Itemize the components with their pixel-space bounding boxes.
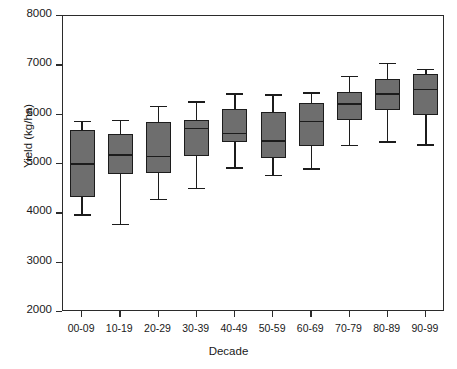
- x-tick-60-69: 60-69: [310, 311, 311, 341]
- y-tick-4000: 4000: [0, 212, 62, 213]
- box-plot-90-99: [63, 16, 445, 312]
- x-tick-10-19: 10-19: [119, 311, 120, 341]
- x-tick-mark: [272, 311, 273, 317]
- y-tick-mark: [56, 311, 62, 312]
- x-tick-30-39: 30-39: [196, 311, 197, 341]
- lower-whisker-cap: [417, 144, 434, 145]
- y-tick-7000: 7000: [0, 64, 62, 65]
- x-tick-20-29: 20-29: [158, 311, 159, 341]
- x-tick-mark: [349, 311, 350, 317]
- box-iqr-rect: [413, 74, 438, 114]
- lower-whisker-line: [425, 115, 426, 145]
- y-tick-3000: 3000: [0, 262, 62, 263]
- x-tick-mark: [234, 311, 235, 317]
- y-tick-6000: 6000: [0, 114, 62, 115]
- x-tick-mark: [387, 311, 388, 317]
- y-tick-label: 3000: [26, 254, 52, 266]
- y-tick-2000: 2000: [0, 311, 62, 312]
- upper-whisker-cap: [417, 69, 434, 70]
- plot-area: [62, 15, 444, 311]
- x-tick-mark: [196, 311, 197, 317]
- x-tick-mark: [310, 311, 311, 317]
- y-tick-label: 5000: [26, 155, 52, 167]
- y-tick-label: 6000: [26, 106, 52, 118]
- x-tick-50-59: 50-59: [272, 311, 273, 341]
- median-line: [413, 89, 438, 91]
- x-tick-mark: [158, 311, 159, 317]
- x-tick-mark: [425, 311, 426, 317]
- y-tick-label: 4000: [26, 204, 52, 216]
- x-tick-mark: [81, 311, 82, 317]
- x-tick-90-99: 90-99: [425, 311, 426, 341]
- y-tick-5000: 5000: [0, 163, 62, 164]
- x-tick-00-09: 00-09: [81, 311, 82, 341]
- x-tick-mark: [119, 311, 120, 317]
- x-tick-label: 90-99: [399, 322, 451, 334]
- y-tick-label: 8000: [26, 7, 52, 19]
- x-tick-80-89: 80-89: [387, 311, 388, 341]
- x-tick-40-49: 40-49: [234, 311, 235, 341]
- box-plot-figure: Yield (kg/ha) 20003000400050006000700080…: [0, 0, 457, 369]
- y-tick-label: 2000: [26, 303, 52, 315]
- x-axis-title: Decade: [0, 345, 457, 357]
- y-axis-title: Yield (kg/ha): [22, 56, 34, 216]
- y-tick-label: 7000: [26, 56, 52, 68]
- y-tick-8000: 8000: [0, 15, 62, 16]
- x-tick-70-79: 70-79: [349, 311, 350, 341]
